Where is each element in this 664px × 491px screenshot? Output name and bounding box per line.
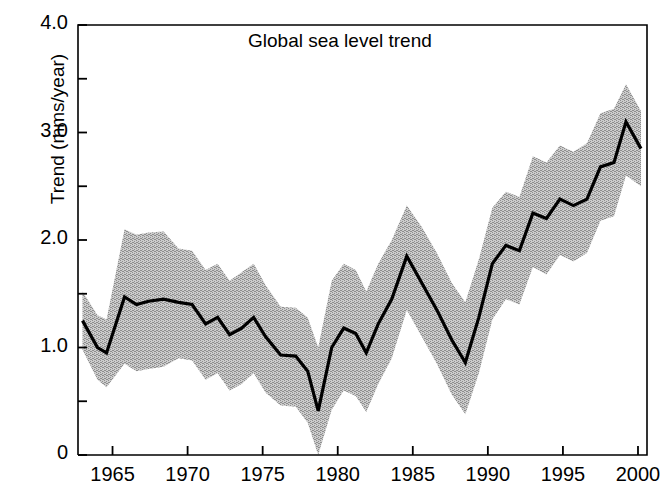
uncertainty-band bbox=[83, 84, 641, 455]
x-tick-label: 1965 bbox=[78, 463, 148, 486]
x-tick-label: 2000 bbox=[603, 463, 664, 486]
y-tick-label: 4.0 bbox=[40, 11, 68, 34]
x-tick-label: 1985 bbox=[378, 463, 448, 486]
y-tick-label: 3.0 bbox=[40, 119, 68, 142]
x-tick-label: 1995 bbox=[528, 463, 598, 486]
y-tick-label: 0 bbox=[57, 441, 68, 464]
y-tick-label: 1.0 bbox=[40, 334, 68, 357]
plot-area bbox=[0, 0, 664, 491]
x-tick-label: 1970 bbox=[153, 463, 223, 486]
x-tick-label: 1990 bbox=[453, 463, 523, 486]
figure: Trend (mms/year) Global sea level trend … bbox=[0, 0, 664, 491]
y-tick-label: 2.0 bbox=[40, 226, 68, 249]
x-tick-label: 1980 bbox=[303, 463, 373, 486]
x-tick-label: 1975 bbox=[228, 463, 298, 486]
